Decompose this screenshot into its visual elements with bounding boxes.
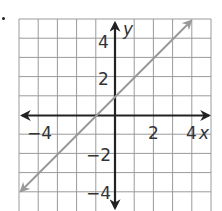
x-axis-label: x <box>198 123 210 143</box>
y-tick-neg4: −4 <box>86 183 111 203</box>
x-tick-neg4: −4 <box>27 123 52 143</box>
y-tick-4: 4 <box>98 32 109 52</box>
y-tick-neg2: −2 <box>86 145 111 165</box>
x-tick-2: 2 <box>148 123 159 143</box>
coordinate-plane: y x 4 2 −2 −4 −4 2 4 <box>0 0 222 211</box>
x-tick-4: 4 <box>186 123 197 143</box>
y-tick-2: 2 <box>98 69 109 89</box>
y-axis-label: y <box>122 19 134 39</box>
